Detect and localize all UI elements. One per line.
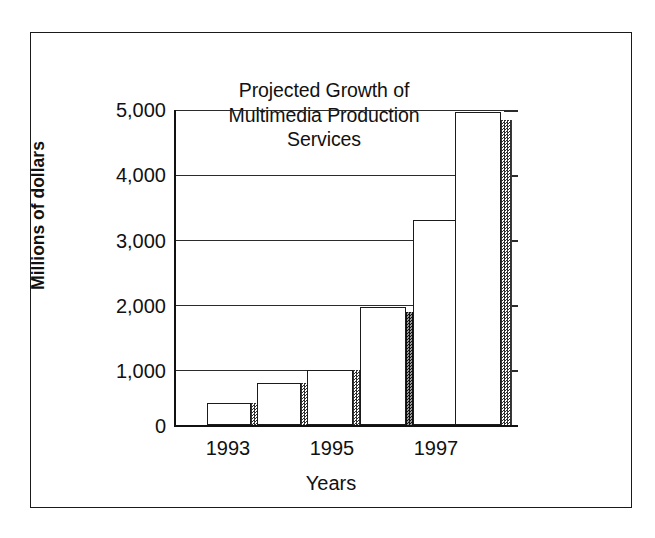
x-tick-label-1995: 1995 [277,437,387,459]
plot-area [174,100,518,432]
y-tick-label-4000: 4,000 [80,165,166,185]
y-axis-line [174,110,176,427]
y-axis-title: Millions of dollars [28,116,49,316]
bar-1993 [207,403,251,425]
bar-shadow-1998 [500,120,512,425]
y-tick-label-0: 0 [80,416,166,436]
y-tick-label-1000: 1,000 [80,361,166,381]
y-axis-tick-labels: 5,000 4,000 3,000 2,000 1,000 0 [56,0,166,538]
y-tick-label-2000: 2,000 [80,296,166,316]
x-tick-label-1993: 1993 [173,437,283,459]
right-tick-5000 [504,110,518,112]
y-tick-label-3000: 3,000 [80,231,166,251]
x-axis-line [174,425,518,427]
bar-1996 [360,307,406,425]
x-axis-title: Years [231,472,431,495]
x-tick-label-1997: 1997 [381,437,491,459]
bar-1994 [257,383,301,425]
bar-1997 [413,220,459,425]
y-tick-label-5000: 5,000 [80,100,166,120]
gridline-5000 [174,110,518,111]
figure-root: Projected Growth of Multimedia Productio… [0,0,655,538]
bar-1998 [455,112,501,425]
bar-1995 [307,370,353,425]
